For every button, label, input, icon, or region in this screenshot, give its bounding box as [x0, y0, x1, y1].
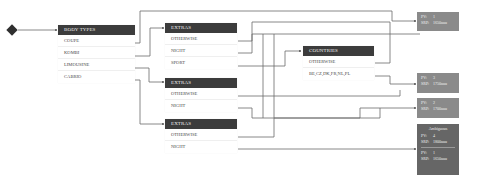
- extras-table-2: EXTRAS OTHERWISE NIGHT: [165, 78, 237, 112]
- extras-1-night[interactable]: NIGHT: [165, 45, 237, 57]
- result-box-2: PV:3 SRP:1750uuu: [417, 73, 459, 93]
- countries-list[interactable]: BE,CZ,DK,FR,NL,PL: [303, 68, 374, 80]
- countries-table: COUNTRIES OTHERWISE BE,CZ,DK,FR,NL,PL: [303, 46, 374, 80]
- extras-1-sport[interactable]: SPORT: [165, 57, 237, 69]
- body-types-table: BODY TYPES COUPE KOMBI LIMOUSINE CABRIO: [58, 25, 135, 83]
- result-box-1: PV:1 SRP:1650uuu: [417, 12, 459, 31]
- extras-3-header: EXTRAS: [165, 119, 237, 129]
- pv-value: 4: [433, 133, 435, 138]
- extras-1-otherwise[interactable]: OTHERWISE: [165, 33, 237, 45]
- body-type-kombi[interactable]: KOMBI: [58, 47, 135, 59]
- pv-value: 1: [433, 150, 435, 155]
- srp-value: 1750uuu: [433, 81, 447, 86]
- pv-value: 3: [433, 75, 435, 80]
- countries-header: COUNTRIES: [303, 46, 374, 56]
- extras-2-otherwise[interactable]: OTHERWISE: [165, 88, 237, 100]
- countries-otherwise[interactable]: OTHERWISE: [303, 56, 374, 68]
- srp-value: 1800uuu: [433, 139, 447, 144]
- extras-2-night[interactable]: NIGHT: [165, 100, 237, 112]
- extras-3-night[interactable]: NIGHT: [165, 141, 237, 153]
- divider: [421, 147, 455, 148]
- srp-value: 1650uuu: [433, 20, 447, 25]
- srp-label: SRP:: [421, 139, 433, 145]
- ambiguous-title: Ambiguous: [421, 126, 455, 132]
- extras-table-3: EXTRAS OTHERWISE NIGHT: [165, 119, 237, 153]
- body-type-coupe[interactable]: COUPE: [58, 35, 135, 47]
- srp-label: SRP:: [421, 20, 433, 26]
- srp-value: 1700uuu: [433, 106, 447, 111]
- srp-value: 1650uuu: [433, 156, 447, 161]
- body-type-limousine[interactable]: LIMOUSINE: [58, 59, 135, 71]
- srp-label: SRP:: [421, 81, 433, 87]
- result-box-ambiguous: Ambiguous PV:4 SRP:1800uuu PV:1 SRP:1650…: [417, 124, 459, 175]
- srp-label: SRP:: [421, 106, 433, 112]
- pv-value: 2: [433, 100, 435, 105]
- extras-table-1: EXTRAS OTHERWISE NIGHT SPORT: [165, 23, 237, 69]
- result-box-3: PV:2 SRP:1700uuu: [417, 98, 459, 118]
- extras-2-header: EXTRAS: [165, 78, 237, 88]
- pv-value: 1: [433, 14, 435, 19]
- body-type-cabrio[interactable]: CABRIO: [58, 71, 135, 83]
- extras-1-header: EXTRAS: [165, 23, 237, 33]
- srp-label: SRP:: [421, 156, 433, 162]
- body-types-header: BODY TYPES: [58, 25, 135, 35]
- extras-3-otherwise[interactable]: OTHERWISE: [165, 129, 237, 141]
- decision-diagram: BODY TYPES COUPE KOMBI LIMOUSINE CABRIO …: [0, 0, 479, 183]
